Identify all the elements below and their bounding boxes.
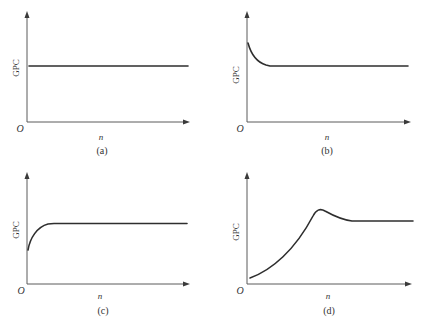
- panel-caption: (b): [321, 145, 333, 157]
- x-axis-arrow-icon: [405, 282, 412, 287]
- panel-c: GPC n O (c): [11, 172, 190, 317]
- panel-b: GPC n O (b): [231, 11, 411, 157]
- x-axis-label: n: [99, 132, 104, 142]
- panel-caption: (c): [97, 305, 108, 317]
- x-axis-arrow-icon: [183, 282, 190, 287]
- panel-caption: (a): [96, 145, 107, 157]
- origin-label: O: [236, 123, 243, 134]
- gpc-curve: [250, 210, 413, 278]
- y-axis-label: GPC: [11, 221, 21, 239]
- y-axis-label: GPC: [231, 223, 241, 241]
- y-axis-arrow-icon: [245, 172, 250, 179]
- origin-label: O: [16, 123, 23, 134]
- panel-d: GPC n O (d): [231, 172, 413, 317]
- y-axis-arrow-icon: [245, 11, 250, 18]
- x-axis-arrow-icon: [404, 120, 411, 125]
- panel-caption: (d): [323, 305, 335, 317]
- origin-label: O: [17, 285, 24, 296]
- x-axis-arrow-icon: [183, 120, 190, 125]
- panel-a: GPC n O (a): [11, 11, 190, 157]
- origin-label: O: [236, 285, 243, 296]
- x-axis-label: n: [325, 132, 330, 142]
- gpc-curve: [28, 224, 187, 251]
- gpc-curve: [248, 43, 408, 66]
- y-axis-arrow-icon: [25, 11, 30, 18]
- y-axis-arrow-icon: [25, 172, 30, 179]
- figure: GPC n O (a) GPC n O (b) GPC n O (c) GPC …: [0, 0, 421, 323]
- y-axis-label: GPC: [11, 59, 21, 77]
- x-axis-label: n: [326, 291, 331, 301]
- y-axis-label: GPC: [231, 66, 241, 84]
- x-axis-label: n: [98, 291, 103, 301]
